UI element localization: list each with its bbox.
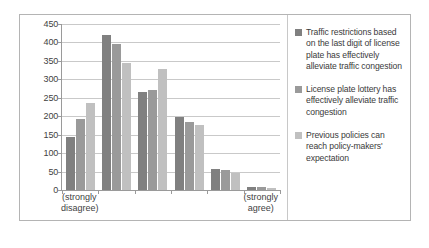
plot-region: 050100150200250300350400450 (stronglydis… xyxy=(20,15,288,220)
x-axis-label-sub-line2: agree) xyxy=(243,203,279,214)
legend-entry-2[interactable]: License plate lottery has effectively al… xyxy=(295,84,407,118)
legend-entry-1[interactable]: Traffic restrictions based on the last d… xyxy=(295,27,407,72)
bar-series1-cat4 xyxy=(175,117,184,190)
bar-group xyxy=(207,24,243,190)
bar-series2-cat2 xyxy=(112,44,121,190)
legend-swatch-icon xyxy=(295,86,302,93)
x-axis-tick-labels: (stronglydisagree)(stronglyagree) xyxy=(61,192,279,238)
y-axis-tick-300: 300 xyxy=(44,75,58,84)
y-axis-tick-150: 150 xyxy=(44,130,58,139)
y-axis-tick-350: 350 xyxy=(44,56,58,65)
chart-frame: 050100150200250300350400450 (stronglydis… xyxy=(19,14,411,221)
bar-series1-cat2 xyxy=(102,35,111,190)
plot-area xyxy=(61,24,280,191)
bar-series3-cat4 xyxy=(195,125,204,190)
y-axis-tick-50: 50 xyxy=(48,167,58,176)
chart-legend: Traffic restrictions based on the last d… xyxy=(289,15,411,220)
bar-series3-cat1 xyxy=(86,103,95,190)
bar-group xyxy=(135,24,171,190)
x-axis-label-6: (stronglyagree) xyxy=(243,192,279,214)
y-axis-tick-200: 200 xyxy=(44,112,58,121)
bar-series3-cat5 xyxy=(231,173,240,190)
bar-series2-cat3 xyxy=(148,90,157,190)
x-axis-label-sub-line1: (strongly xyxy=(61,192,97,203)
y-axis-tick-250: 250 xyxy=(44,93,58,102)
bar-series3-cat2 xyxy=(122,63,131,190)
legend-swatch-icon xyxy=(295,132,302,139)
x-tick-mark xyxy=(280,190,281,194)
y-axis-tick-labels: 050100150200250300350400450 xyxy=(28,24,58,190)
bar-group xyxy=(244,24,280,190)
y-axis-tick-100: 100 xyxy=(44,149,58,158)
bar-series2-cat5 xyxy=(221,170,230,190)
x-axis-label-sub-line1: (strongly xyxy=(243,192,279,203)
x-axis-label-sub-line2: disagree) xyxy=(61,203,97,214)
bar-group xyxy=(62,24,98,190)
bar-group xyxy=(171,24,207,190)
bar-series1-cat6 xyxy=(247,187,256,190)
bar-series2-cat1 xyxy=(76,119,85,190)
legend-label: Previous policies can reach policy-maker… xyxy=(306,130,407,164)
bar-series3-cat6 xyxy=(267,188,276,190)
bar-series1-cat5 xyxy=(211,169,220,190)
bar-group xyxy=(98,24,134,190)
legend-label: Traffic restrictions based on the last d… xyxy=(306,27,407,72)
bar-series3-cat3 xyxy=(158,69,167,190)
bar-series1-cat3 xyxy=(138,92,147,190)
legend-swatch-icon xyxy=(295,29,302,36)
bar-series2-cat6 xyxy=(257,187,266,190)
bar-series2-cat4 xyxy=(185,122,194,190)
legend-label: License plate lottery has effectively al… xyxy=(306,84,407,118)
legend-entry-3[interactable]: Previous policies can reach policy-maker… xyxy=(295,130,407,164)
bar-series1-cat1 xyxy=(66,137,75,190)
y-axis-tick-450: 450 xyxy=(44,20,58,29)
x-axis-label-1: (stronglydisagree) xyxy=(61,192,97,214)
y-axis-tick-400: 400 xyxy=(44,38,58,47)
